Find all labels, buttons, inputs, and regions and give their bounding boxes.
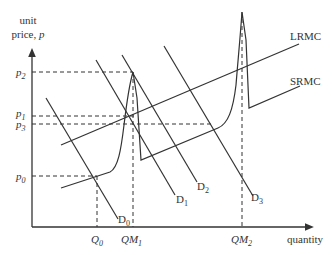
demand-label-d1: D1 — [176, 193, 188, 208]
economics-diagram: unit price, p quantity LRMC SRMC D0 D1 D… — [0, 0, 334, 255]
lrmc-label: LRMC — [290, 30, 321, 42]
y-axis-label-line2: price, p — [12, 28, 45, 40]
y-axis-label-line1: unit — [19, 14, 36, 26]
x-axis-label: quantity — [287, 233, 324, 245]
price-tick-p0: p0 — [15, 170, 26, 185]
quantity-tick-qm2: QM2 — [231, 233, 252, 248]
demand-label-d2: D2 — [197, 180, 209, 195]
diagram-canvas: unit price, p quantity LRMC SRMC D0 D1 D… — [0, 0, 334, 255]
demand-label-d3: D3 — [251, 191, 263, 206]
srmc-curves — [61, 12, 300, 188]
guide-lines — [32, 12, 242, 227]
price-tick-p2: p2 — [15, 66, 26, 81]
quantity-tick-qm1: QM1 — [121, 233, 142, 248]
srmc-label: SRMC — [290, 75, 321, 87]
lrmc-curve — [61, 44, 299, 145]
demand-label-d0: D0 — [118, 213, 130, 228]
quantity-tick-q0: Q0 — [91, 233, 103, 248]
